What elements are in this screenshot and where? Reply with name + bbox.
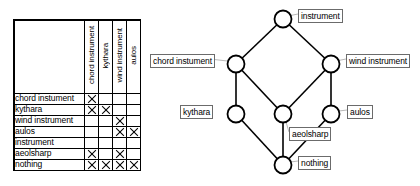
lattice-node-wind-instrument[interactable] [323, 56, 340, 73]
cross-table-cell-empty[interactable] [127, 104, 141, 115]
cross-table-cell-empty[interactable] [85, 115, 99, 126]
cross-table-cell-empty[interactable] [113, 137, 127, 148]
cross-mark-icon [99, 160, 112, 170]
cross-table-cell-empty[interactable] [85, 137, 99, 148]
cross-mark-icon [113, 116, 126, 126]
cross-table-cell-marked[interactable] [127, 159, 141, 170]
cross-table-cell-empty[interactable] [99, 126, 113, 137]
cross-mark-icon [85, 94, 98, 104]
cross-table-column-header: aulos [127, 21, 141, 94]
fca-table-and-lattice-figure: chord instrumentkytharawind instrumentau… [0, 0, 420, 186]
column-header-label: kythara [101, 41, 110, 70]
lattice-node-label-aeolsharp: aeolsharp [289, 127, 331, 141]
cross-table-cell-empty[interactable] [127, 148, 141, 159]
lattice-edge [283, 64, 331, 114]
concept-lattice-diagram: instrumentchord instumentwind instrument… [150, 0, 420, 186]
cross-table-corner-cell [15, 21, 85, 94]
cross-table-cell-marked[interactable] [113, 126, 127, 137]
lattice-edge [236, 114, 283, 165]
cross-table-row-header: aulos [15, 126, 85, 137]
cross-table-column-header: wind instrument [113, 21, 127, 94]
cross-table: chord instrumentkytharawind instrumentau… [13, 19, 141, 171]
lattice-node-label-nothing: nothing [298, 156, 331, 170]
lattice-node-label-wind-instrument: wind instrument [346, 54, 410, 68]
lattice-edge [236, 64, 283, 114]
table-row: instrument [15, 137, 141, 148]
empty-cell [85, 138, 98, 148]
cross-mark-icon [113, 127, 126, 137]
table-row: chord instument [15, 93, 141, 104]
cross-mark-icon [113, 160, 126, 170]
empty-cell [99, 127, 112, 137]
cross-table-cell-marked[interactable] [113, 159, 127, 170]
empty-cell [127, 94, 140, 104]
cross-table-grid: chord instrumentkytharawind instrumentau… [14, 20, 140, 170]
cross-table-cell-empty[interactable] [99, 148, 113, 159]
column-header-label: aulos [129, 44, 138, 66]
cross-table-row-header: kythara [15, 104, 85, 115]
lattice-node-chord-instument[interactable] [228, 56, 245, 73]
empty-cell [113, 105, 126, 115]
cross-table-row-header: aeolsharp [15, 148, 85, 159]
cross-table-cell-empty[interactable] [99, 137, 113, 148]
empty-cell [99, 138, 112, 148]
table-row: nothing [15, 159, 141, 170]
cross-table-cell-marked[interactable] [99, 159, 113, 170]
cross-mark-icon [113, 149, 126, 159]
cross-mark-icon [99, 105, 112, 115]
column-header-label: wind instrument [115, 26, 124, 84]
cross-table-cell-empty[interactable] [113, 93, 127, 104]
table-row: aulos [15, 126, 141, 137]
lattice-edge [283, 19, 331, 64]
cross-table-cell-empty[interactable] [113, 104, 127, 115]
lattice-node-label-instrument: instrument [298, 9, 343, 23]
cross-table-row-header: wind instrument [15, 115, 85, 126]
cross-mark-icon [85, 160, 98, 170]
cross-table-cell-marked[interactable] [99, 104, 113, 115]
table-row: aeolsharp [15, 148, 141, 159]
empty-cell [127, 138, 140, 148]
empty-cell [113, 138, 126, 148]
cross-table-cell-empty[interactable] [127, 93, 141, 104]
empty-cell [113, 94, 126, 104]
cross-table-cell-empty[interactable] [127, 115, 141, 126]
lattice-node-aeolsharp[interactable] [275, 106, 292, 123]
cross-mark-icon [127, 160, 140, 170]
lattice-edge [236, 19, 283, 64]
lattice-node-aulos[interactable] [323, 106, 340, 123]
lattice-graph [150, 0, 420, 186]
cross-table-cell-empty[interactable] [99, 93, 113, 104]
cross-table-cell-marked[interactable] [127, 126, 141, 137]
cross-table-cell-marked[interactable] [113, 115, 127, 126]
cross-table-row-header: chord instument [15, 93, 85, 104]
empty-cell [99, 116, 112, 126]
cross-table-cell-empty[interactable] [127, 137, 141, 148]
empty-cell [127, 105, 140, 115]
cross-table-cell-empty[interactable] [99, 115, 113, 126]
empty-cell [127, 149, 140, 159]
lattice-node-label-kythara: kythara [180, 105, 213, 119]
cross-table-cell-marked[interactable] [85, 159, 99, 170]
cross-table-row-header: instrument [15, 137, 85, 148]
lattice-node-nothing[interactable] [275, 157, 292, 174]
cross-table-cell-marked[interactable] [85, 148, 99, 159]
column-header-label: chord instrument [87, 24, 96, 85]
cross-table-column-header: chord instrument [85, 21, 99, 94]
table-row: kythara [15, 104, 141, 115]
cross-mark-icon [85, 105, 98, 115]
lattice-node-instrument[interactable] [275, 11, 292, 28]
cross-table-cell-empty[interactable] [85, 126, 99, 137]
cross-mark-icon [127, 127, 140, 137]
cross-table-cell-marked[interactable] [85, 104, 99, 115]
cross-table-cell-marked[interactable] [113, 148, 127, 159]
cross-table-cell-marked[interactable] [85, 93, 99, 104]
lattice-node-label-aulos: aulos [347, 105, 373, 119]
cross-table-column-header: kythara [99, 21, 113, 94]
cross-mark-icon [85, 149, 98, 159]
empty-cell [85, 116, 98, 126]
empty-cell [127, 116, 140, 126]
cross-table-header-row: chord instrumentkytharawind instrumentau… [15, 21, 141, 94]
empty-cell [99, 94, 112, 104]
lattice-node-kythara[interactable] [228, 106, 245, 123]
table-row: wind instrument [15, 115, 141, 126]
